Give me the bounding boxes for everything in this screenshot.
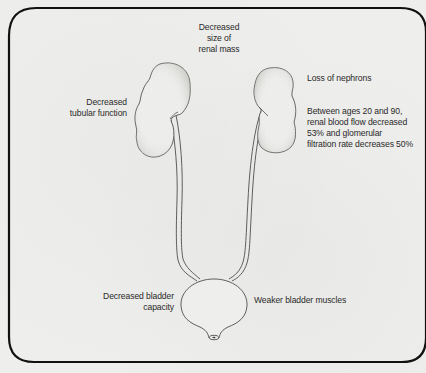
right-kidney	[254, 68, 296, 153]
left-kidney	[135, 63, 190, 157]
label-tubular-function: Decreased tubular function	[50, 97, 127, 119]
label-loss-of-nephrons: Loss of nephrons	[307, 73, 422, 84]
label-bladder-capacity: Decreased bladder capacity	[90, 291, 174, 313]
bladder	[181, 279, 247, 340]
left-ureter	[171, 115, 200, 281]
label-blood-flow-gfr: Between ages 20 and 90, renal blood flow…	[307, 106, 425, 150]
urinary-system-illustration	[0, 0, 426, 373]
label-bladder-muscles: Weaker bladder muscles	[254, 295, 374, 306]
label-renal-mass: Decreased size of renal mass	[186, 22, 252, 55]
diagram-canvas: Decreased size of renal mass Decreased t…	[0, 0, 426, 373]
